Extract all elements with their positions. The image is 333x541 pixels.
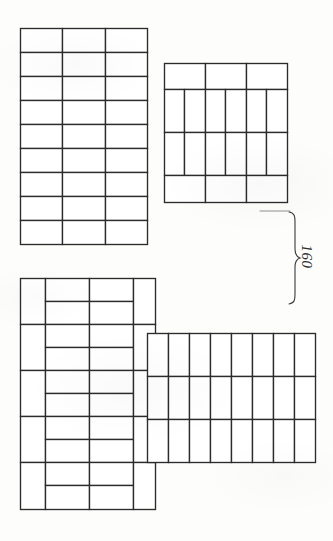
panel-upper-right-soldier-course — [165, 64, 288, 203]
panel-upper-left-stretcher-stack — [21, 29, 148, 245]
panel-lower-right-soldier-field — [148, 334, 316, 463]
drawing-sheet: 160 — [0, 0, 333, 541]
dimension-label-160: 160 — [298, 245, 315, 269]
bond-pattern-drawing — [0, 0, 333, 541]
dimension-brace — [260, 211, 300, 304]
panel-lower-left-basketweave — [21, 279, 156, 510]
